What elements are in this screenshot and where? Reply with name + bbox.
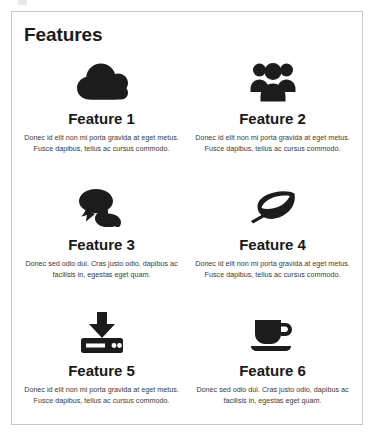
feature-description: Donec id elit non mi porta gravida at eg… <box>195 259 350 280</box>
feature-title: Feature 4 <box>239 236 306 254</box>
page-root: Features Feature 1 Donec id elit non mi … <box>0 0 375 434</box>
page-title: Features <box>12 12 362 46</box>
feature-grid: Feature 1 Donec id elit non mi porta gra… <box>12 46 362 430</box>
feature-item-3: Feature 3 Donec sed odio dui. Cras justo… <box>16 178 187 304</box>
feature-title: Feature 2 <box>239 110 306 128</box>
feature-title: Feature 1 <box>68 110 135 128</box>
feature-description: Donec sed odio dui. Cras justo odio, dap… <box>195 385 350 406</box>
feature-title: Feature 6 <box>239 362 306 380</box>
feature-description: Donec sed odio dui. Cras justo odio, dap… <box>24 259 179 280</box>
feature-description: Donec id elit non mi porta gravida at eg… <box>24 385 179 406</box>
feature-item-4: Feature 4 Donec id elit non mi porta gra… <box>187 178 358 304</box>
feature-description: Donec id elit non mi porta gravida at eg… <box>195 133 350 154</box>
feature-item-2: Feature 2 Donec id elit non mi porta gra… <box>187 52 358 178</box>
feature-title: Feature 3 <box>68 236 135 254</box>
feature-item-6: Feature 6 Donec sed odio dui. Cras justo… <box>187 304 358 430</box>
top-edge-artifact <box>18 0 27 5</box>
features-card: Features Feature 1 Donec id elit non mi … <box>11 11 363 425</box>
comments-icon <box>78 178 126 236</box>
feature-item-5: Feature 5 Donec id elit non mi porta gra… <box>16 304 187 430</box>
feature-item-1: Feature 1 Donec id elit non mi porta gra… <box>16 52 187 178</box>
feature-description: Donec id elit non mi porta gravida at eg… <box>24 133 179 154</box>
download-inbox-icon <box>79 304 125 362</box>
cloud-icon <box>76 52 128 110</box>
coffee-cup-icon <box>249 304 297 362</box>
leaf-icon <box>248 178 298 236</box>
users-group-icon <box>250 52 296 110</box>
feature-title: Feature 5 <box>68 362 135 380</box>
